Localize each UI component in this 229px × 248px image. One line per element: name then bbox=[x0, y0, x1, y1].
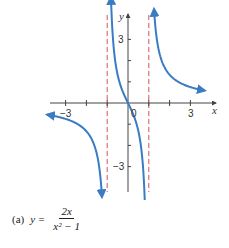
caption-lhs: y = bbox=[30, 213, 45, 225]
x-tick-label-3: 3 bbox=[188, 108, 194, 119]
function-caption: (a) y = 2x x² − 1 bbox=[12, 205, 80, 232]
curve-left-branch bbox=[47, 115, 102, 198]
y-axis-label: y bbox=[118, 10, 124, 22]
y-tick-label-3: 3 bbox=[118, 34, 124, 45]
rational-function-graph: −3 3 3 −3 0 x y bbox=[0, 0, 229, 200]
caption-label: (a) bbox=[12, 213, 24, 225]
curve-right-branch bbox=[154, 9, 205, 91]
caption-fraction: 2x x² − 1 bbox=[53, 205, 80, 232]
origin-label: 0 bbox=[131, 108, 137, 119]
x-tick-label-neg3: −3 bbox=[60, 108, 72, 119]
caption-numerator: 2x bbox=[59, 205, 73, 219]
y-tick-label-neg3: −3 bbox=[113, 161, 125, 172]
x-axis-label: x bbox=[211, 104, 217, 116]
caption-denominator: x² − 1 bbox=[53, 219, 80, 232]
